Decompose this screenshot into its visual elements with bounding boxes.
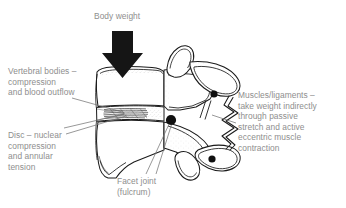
label-muscles-ligaments: Muscles/ligaments – take weight indirect…	[238, 90, 344, 154]
process-dot-lower-icon	[208, 155, 215, 162]
intervertebral-disc	[97, 106, 165, 122]
label-vertebral-bodies: Vertebral bodies – compression and blood…	[8, 66, 108, 98]
label-disc: Disc – nuclear compression and annular t…	[8, 130, 108, 172]
fulcrum-dot-icon	[166, 115, 176, 125]
process-dot-upper-icon	[210, 90, 217, 97]
label-facet-joint: Facet joint (fulcrum)	[117, 176, 217, 197]
diagram-figure: Body weight Vertebral bodies – compressi…	[0, 0, 346, 208]
label-body-weight: Body weight	[94, 11, 214, 22]
